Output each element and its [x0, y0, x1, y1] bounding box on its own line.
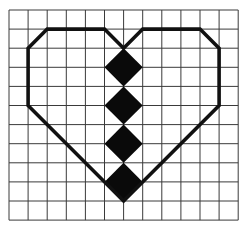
diamond-shape	[105, 125, 143, 163]
diamond-shape	[105, 86, 143, 124]
diamond-shape	[105, 163, 143, 201]
diagram-svg	[0, 0, 251, 228]
grid-heart-diagram	[0, 0, 251, 228]
diamond-shape	[105, 48, 143, 86]
